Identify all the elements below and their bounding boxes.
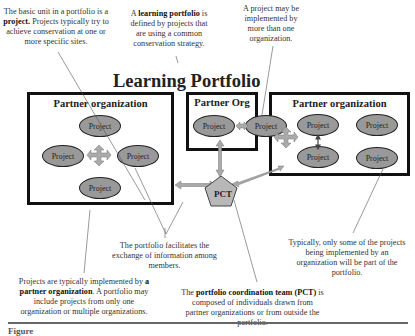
figure-caption: Figure (8, 326, 33, 336)
project-node: Project (297, 146, 339, 168)
org-label: Partner Org (189, 97, 255, 108)
note-bold: project. (3, 17, 30, 26)
note-text: The (181, 288, 196, 297)
project-node: Project (193, 115, 235, 137)
pct-label: PCT (214, 189, 232, 199)
shared-project-node: Project (245, 115, 287, 137)
note-text: Projects are typically implemented by (19, 277, 145, 286)
diagram-title: Learning Portfolio (113, 71, 415, 92)
note-project-unit: The basic unit in a portfolio is a proje… (2, 7, 110, 47)
note-bold: (PCT) (294, 288, 316, 297)
note-learning-portfolio: A learning portfolio is defined by proje… (128, 9, 210, 49)
project-node: Project (356, 114, 398, 136)
project-node: Project (297, 114, 339, 136)
project-node: Project (42, 145, 84, 167)
note-info-exchange: The portfolio facilitates the exchange o… (112, 241, 217, 271)
note-multi-org: A project may be implemented by more tha… (241, 4, 301, 44)
note-bold: portfolio coordination team (196, 288, 292, 297)
project-node: Project (117, 145, 159, 167)
note-bold: learning portfolio (138, 9, 200, 18)
divider (8, 322, 408, 324)
project-node: Project (356, 147, 398, 169)
project-node: Project (79, 177, 121, 199)
org-label: Partner organization (272, 98, 407, 109)
note-text: The basic unit in a portfolio is a (4, 7, 108, 16)
note-partner-org: Projects are typically implemented by a … (14, 277, 154, 317)
note-some-projects: Typically, only some of the projects bei… (287, 238, 407, 278)
project-node: Project (79, 115, 121, 137)
org-label: Partner organization (30, 98, 171, 109)
